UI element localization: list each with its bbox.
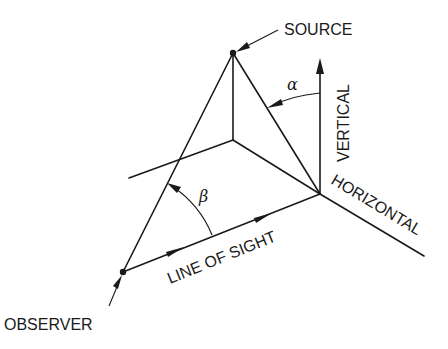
horizontal-plane-left-line — [129, 140, 233, 178]
source-point — [230, 50, 236, 56]
geometry-diagram: SOURCE OBSERVER VERTICAL HORIZONTAL LINE… — [0, 0, 448, 349]
alpha-arc-arrowhead — [267, 99, 283, 108]
alpha-label: α — [287, 75, 298, 94]
source-junction-line — [233, 53, 320, 194]
vertical-arrowhead — [316, 58, 324, 74]
observer-label: OBSERVER — [4, 316, 93, 333]
vertical-label: VERTICAL — [335, 84, 352, 162]
line-of-sight-label: LINE OF SIGHT — [165, 228, 279, 287]
beta-label: β — [198, 187, 208, 206]
source-leader-arrowhead — [236, 42, 250, 52]
observer-source-line — [123, 53, 233, 272]
observer-point — [120, 269, 126, 275]
inner-vertex-junction-line — [233, 140, 320, 194]
line-of-sight-arrowhead-2 — [254, 213, 272, 223]
source-label: SOURCE — [284, 21, 352, 38]
line-of-sight-arrowhead-1 — [166, 247, 184, 257]
observer-leader-arrowhead — [113, 275, 122, 289]
